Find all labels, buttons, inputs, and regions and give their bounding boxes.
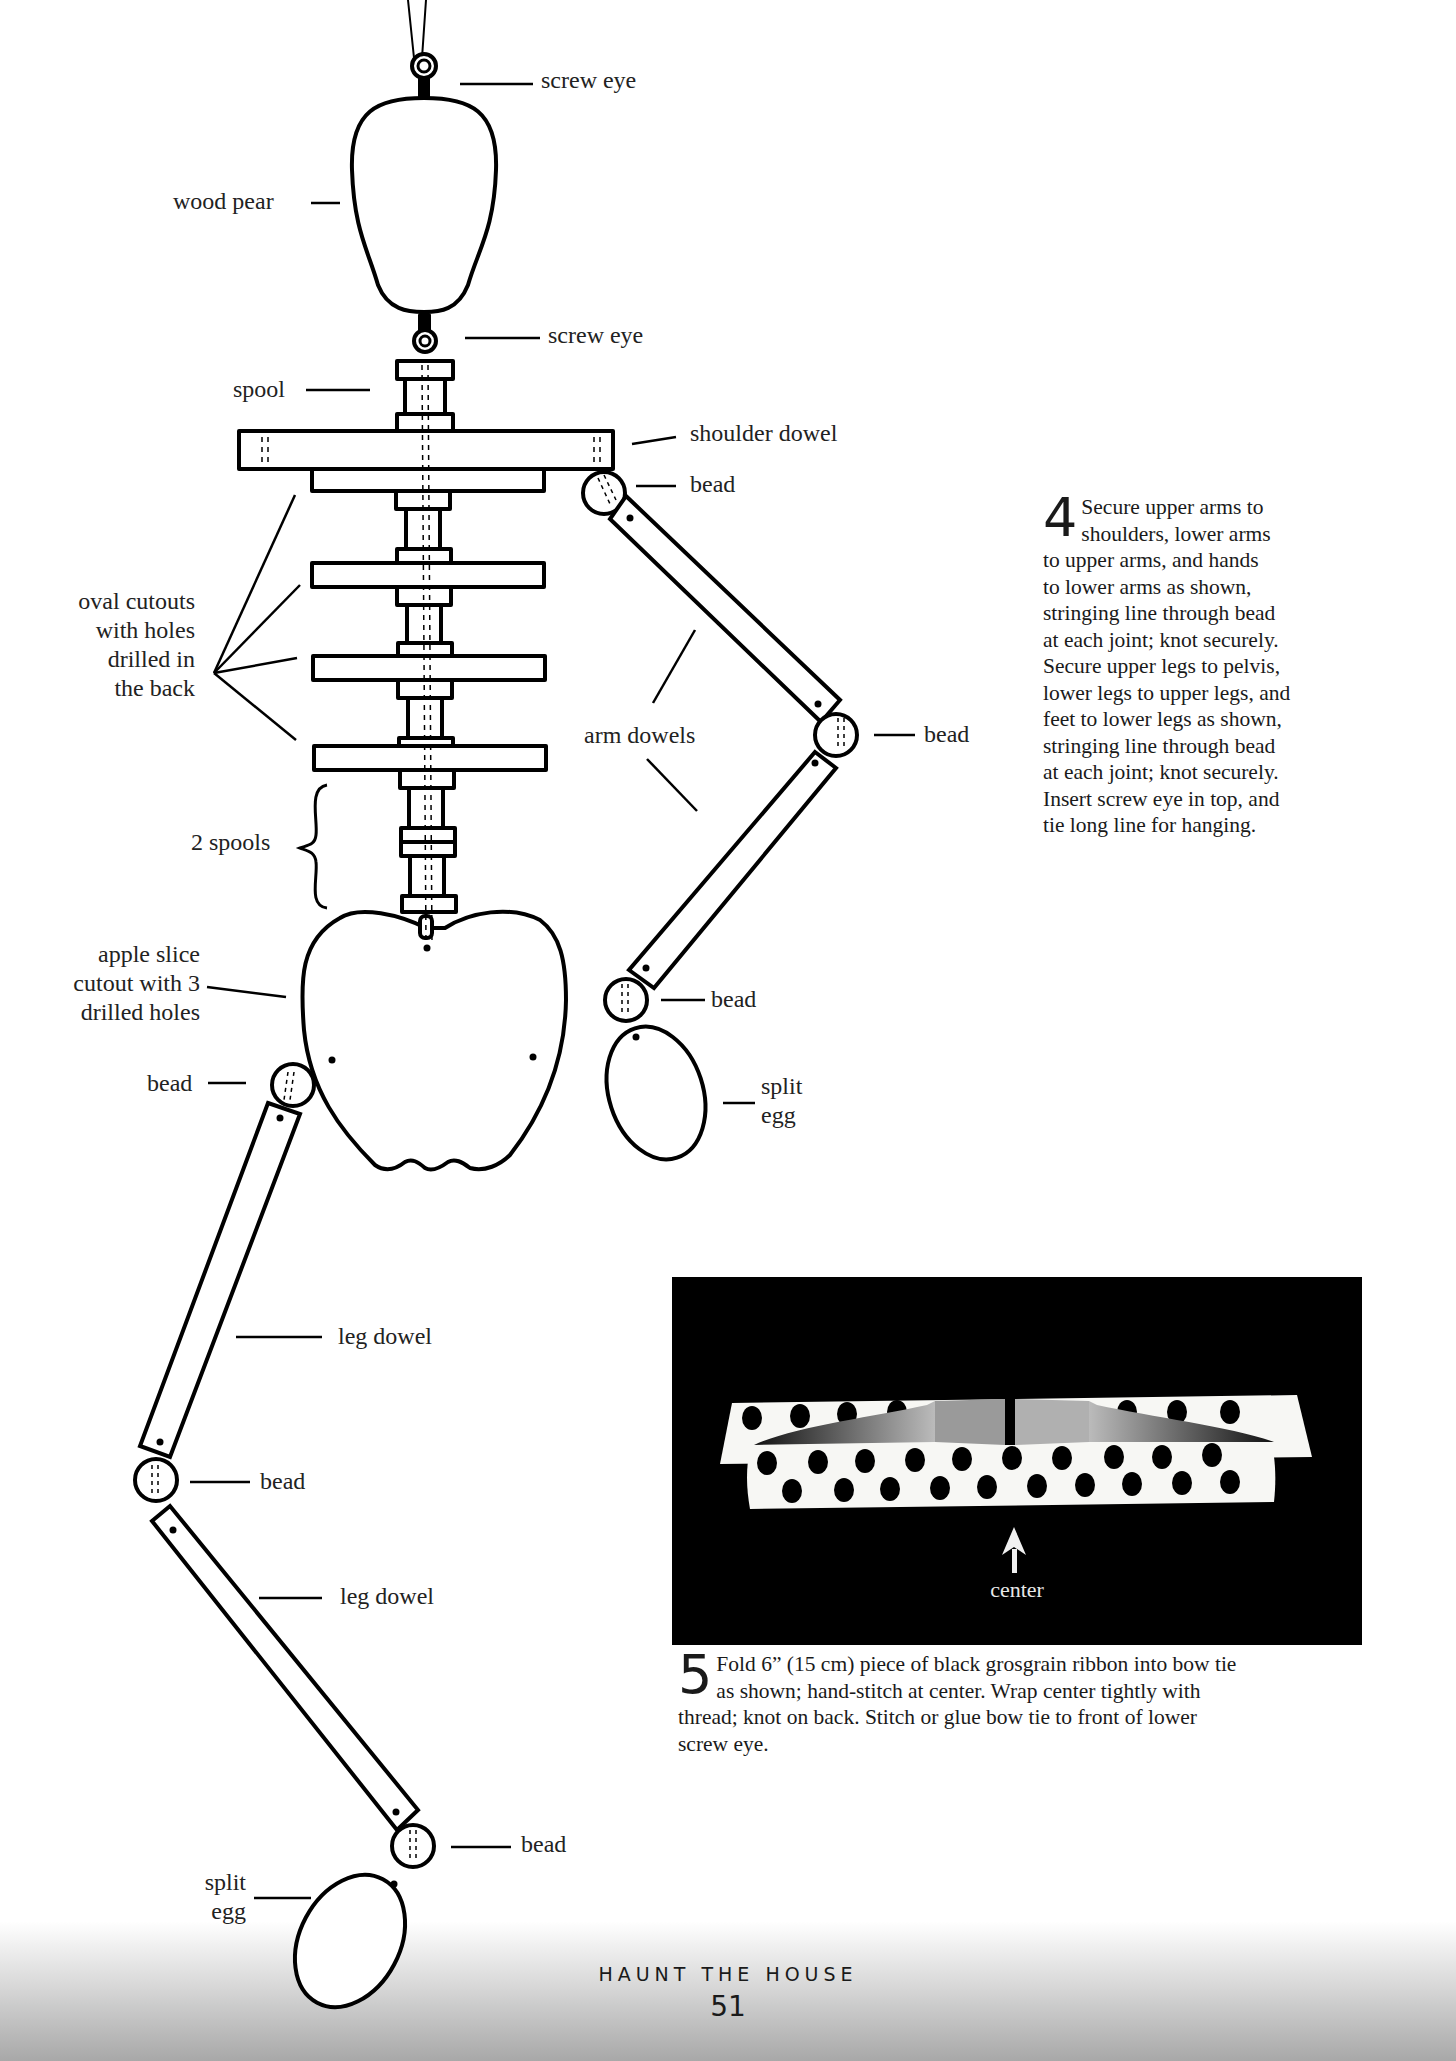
label-bead-elbow: bead [924, 720, 969, 749]
label-wood-pear: wood pear [173, 187, 274, 216]
page-number: 51 [0, 1990, 1456, 2023]
label-spool: spool [233, 375, 285, 404]
step-4-number: 4 [1043, 496, 1077, 540]
apple-slice-pelvis [302, 912, 566, 1170]
label-shoulder-dowel: shoulder dowel [690, 419, 837, 448]
label-oval-cutouts: oval cutouts with holes drilled in the b… [40, 587, 195, 703]
label-split-egg-hand: split egg [761, 1072, 802, 1130]
label-bead-shoulder: bead [690, 470, 735, 499]
step-5-number: 5 [678, 1653, 712, 1697]
running-footer-title: HAUNT THE HOUSE [0, 1963, 1456, 1985]
label-bead-hip: bead [147, 1069, 192, 1098]
step-5-instructions: 5 Fold 6” (15 cm) piece of black grosgra… [678, 1651, 1368, 1757]
label-bead-ankle: bead [521, 1830, 566, 1859]
label-leg-dowel-lower: leg dowel [340, 1582, 434, 1611]
label-apple-slice: apple slice cutout with 3 drilled holes [40, 940, 200, 1027]
label-bead-wrist: bead [711, 985, 756, 1014]
arrow-up-icon [1002, 1527, 1026, 1573]
label-screw-eye-lower: screw eye [548, 321, 643, 350]
step-4-instructions: 4 Secure upper arms to shoulders, lower … [1043, 494, 1373, 839]
label-screw-eye-top: screw eye [541, 66, 636, 95]
label-center: center [672, 1577, 1362, 1603]
label-split-egg-foot: split egg [180, 1868, 246, 1926]
wood-pear-head [352, 98, 496, 312]
label-arm-dowels: arm dowels [584, 721, 695, 750]
bow-tie-illustration: center [672, 1277, 1362, 1645]
label-bead-knee: bead [260, 1467, 305, 1496]
label-two-spools: 2 spools [191, 828, 270, 857]
label-leg-dowel-upper: leg dowel [338, 1322, 432, 1351]
